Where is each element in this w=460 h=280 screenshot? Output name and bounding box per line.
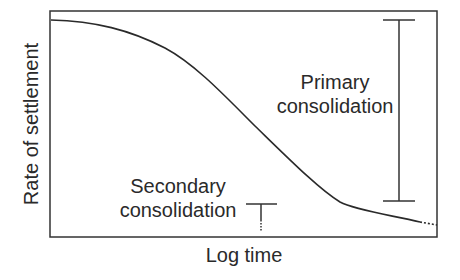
primary-label-line2: consolidation [277,95,394,117]
primary-label-line1: Primary [301,71,370,93]
settlement-curve [51,20,420,222]
y-axis-label: Rate of settlement [20,42,42,205]
secondary-consolidation-bracket [246,204,277,232]
settlement-diagram: Primary consolidation Secondary consolid… [0,0,460,280]
secondary-label-line2: consolidation [120,199,237,221]
curve-dotted-tail [420,222,437,225]
secondary-label-line1: Secondary [130,175,226,197]
plot-frame [50,11,437,237]
x-axis-label: Log time [206,244,283,266]
